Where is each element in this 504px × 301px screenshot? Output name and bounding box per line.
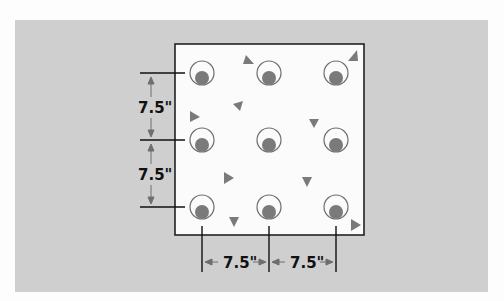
vertical-dim-label-2: 7.5" — [138, 166, 172, 184]
horizontal-dim-label-2: 7.5" — [290, 254, 324, 272]
grid-diagram: 7.5" 7.5" 7.5" 7.5" — [0, 0, 504, 301]
vertical-dim-label-1: 7.5" — [138, 99, 172, 117]
horizontal-dim-label-1: 7.5" — [223, 254, 257, 272]
